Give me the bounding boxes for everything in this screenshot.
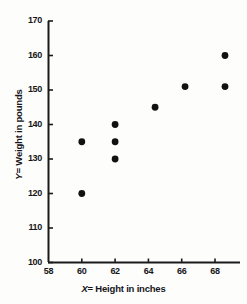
y-axis-variable: Y (13, 173, 24, 179)
data-point (78, 190, 85, 197)
y-axis-label: Y= Weight in pounds (13, 40, 24, 230)
y-tick-label: 170 (18, 15, 42, 25)
data-points (78, 52, 228, 197)
data-point (222, 83, 229, 90)
data-point (112, 138, 119, 145)
axes (48, 21, 240, 263)
data-point (222, 52, 229, 59)
x-axis-label-text: = Height in inches (88, 283, 166, 294)
data-point (78, 138, 85, 145)
x-tick-label: 62 (104, 266, 126, 276)
x-tick-label: 60 (71, 266, 93, 276)
x-tick-label: 68 (204, 266, 226, 276)
scatter-plot-figure: 100110120130140150160170 586062646668 X=… (0, 0, 247, 304)
x-tick-label: 64 (137, 266, 159, 276)
data-point (112, 156, 119, 163)
y-axis-label-text: = Weight in pounds (13, 89, 24, 173)
data-point (112, 121, 119, 128)
x-axis-label: X= Height in inches (0, 283, 247, 294)
data-point (182, 83, 189, 90)
x-tick-label: 66 (171, 266, 193, 276)
x-tick-label: 58 (38, 266, 60, 276)
data-point (152, 104, 159, 111)
